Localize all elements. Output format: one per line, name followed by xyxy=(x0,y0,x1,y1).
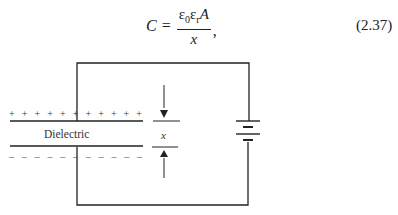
battery-icon xyxy=(236,121,260,140)
arrow-down-icon xyxy=(160,110,168,118)
gap-label: x xyxy=(160,129,166,141)
dielectric-label: Dielectric xyxy=(44,128,89,140)
positive-charges: + + + + + + + + + + + xyxy=(9,108,142,119)
arrow-up-icon xyxy=(160,150,168,157)
negative-charges: – – – – – – – – – – – xyxy=(8,151,143,162)
capacitor-circuit-diagram: + + + + + + + + + + + – – – – – – – – – … xyxy=(0,0,398,215)
